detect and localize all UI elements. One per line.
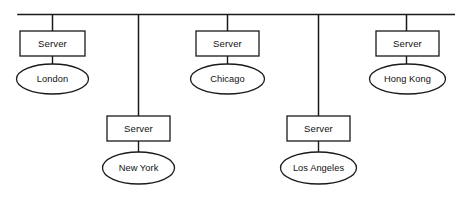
site-ellipse-label-hong-kong: Hong Kong	[384, 74, 431, 84]
server-box-label-hong-kong: Server	[393, 38, 423, 49]
diagram-canvas: Server London Server New York Server Chi…	[0, 0, 455, 203]
node-group-los-angeles[interactable]: Server Los Angeles	[281, 15, 357, 185]
server-box-label-london: Server	[38, 38, 68, 49]
site-ellipse-label-los-angeles: Los Angeles	[293, 163, 345, 173]
site-ellipse-label-new-york: New York	[119, 163, 159, 173]
server-box-label-chicago: Server	[213, 38, 243, 49]
site-ellipse-label-chicago: Chicago	[210, 74, 244, 84]
node-group-hong-kong[interactable]: Server Hong Kong	[370, 15, 446, 95]
node-group-new-york[interactable]: Server New York	[103, 15, 175, 185]
network-topology-diagram: Server London Server New York Server Chi…	[0, 0, 455, 203]
server-box-label-new-york: Server	[124, 123, 154, 134]
site-ellipse-label-london: London	[37, 74, 68, 84]
node-group-london[interactable]: Server London	[17, 15, 89, 95]
node-group-chicago[interactable]: Server Chicago	[191, 15, 265, 95]
server-box-label-los-angeles: Server	[304, 123, 334, 134]
